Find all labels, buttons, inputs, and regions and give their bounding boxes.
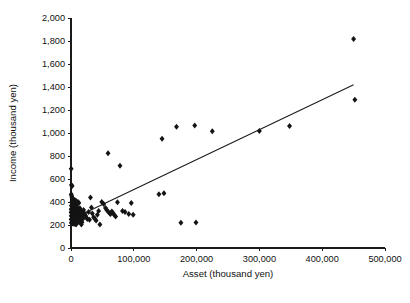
y-tick-label: 400 <box>50 197 65 207</box>
y-axis-title: Income (thousand yen) <box>7 84 18 182</box>
y-tick-label: 1,200 <box>42 105 65 115</box>
x-axis-title: Asset (thousand yen) <box>183 268 274 279</box>
x-tick-label: 200,000 <box>180 254 213 264</box>
x-tick-label: 400,000 <box>306 254 339 264</box>
chart-canvas: 02004006008001,0001,2001,4001,6001,8002,… <box>0 0 410 303</box>
x-tick-label: 500,000 <box>368 254 401 264</box>
y-tick-label: 1,400 <box>42 82 65 92</box>
x-tick-label: 300,000 <box>243 254 276 264</box>
y-tick-label: 200 <box>50 220 65 230</box>
y-tick-label: 1,600 <box>42 59 65 69</box>
scatter-plot-figure: 02004006008001,0001,2001,4001,6001,8002,… <box>0 0 410 303</box>
x-tick-label: 0 <box>68 254 73 264</box>
y-tick-label: 800 <box>50 151 65 161</box>
y-tick-label: 0 <box>60 243 65 253</box>
y-tick-label: 2,000 <box>42 13 65 23</box>
y-tick-label: 1,800 <box>42 36 65 46</box>
x-tick-label: 100,000 <box>117 254 150 264</box>
y-tick-label: 1,000 <box>42 128 65 138</box>
y-tick-label: 600 <box>50 174 65 184</box>
